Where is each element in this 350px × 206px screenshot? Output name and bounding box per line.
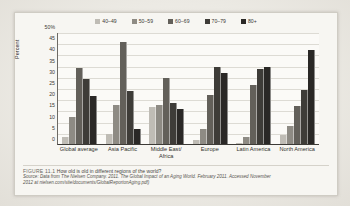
bar [76,68,83,144]
bar-group [106,33,141,144]
x-axis-category-label: Global average [58,146,100,159]
bar [156,105,163,144]
y-axis-tick-labels: 50%454035302520151050 [35,27,57,139]
legend-label: 70–79 [212,18,226,24]
legend-swatch-icon [168,19,173,24]
y-axis-tick-label: 40 [49,46,55,52]
bar [83,79,90,144]
legend-item: 40–49 [95,18,116,24]
legend-item: 70–79 [205,18,226,24]
y-axis-tick-label: 35 [49,58,55,64]
legend-item: 50–59 [132,18,153,24]
bar [127,91,134,144]
bar [257,69,264,144]
legend-swatch-icon [205,19,210,24]
bar [69,117,76,144]
bar [287,126,294,144]
bar [250,85,257,144]
legend-item: 60–69 [168,18,189,24]
bar [120,42,127,144]
bar [177,109,184,144]
x-axis-category-label: Europe [189,146,231,159]
x-axis-category-labels: Global averageAsia PacificMiddle East/ A… [57,146,319,159]
legend-swatch-icon [132,19,137,24]
x-axis-category-label: Latin America [232,146,274,159]
bar [243,137,250,144]
y-axis-tick-label: 50% [45,24,55,30]
bar [200,129,207,144]
bar-groups [58,33,319,144]
y-axis-title: Percent [14,40,20,59]
y-axis-tick-label: 0 [52,136,55,142]
figure-card: 40–49 50–59 60–69 70–79 80+ Percent 50%4… [14,12,338,196]
y-axis-tick-label: 30 [49,69,55,75]
bar [163,78,170,144]
legend-swatch-icon [241,19,246,24]
bar [294,106,301,144]
bar-group [280,33,315,144]
bar [193,140,200,144]
legend-label: 40–49 [102,18,116,24]
bar-group [236,33,271,144]
bar [134,129,141,144]
bar [221,73,228,144]
bar [106,134,113,144]
scanned-page: 40–49 50–59 60–69 70–79 80+ Percent 50%4… [0,0,350,206]
bar [280,135,287,144]
y-axis-tick-label: 5 [52,125,55,131]
x-axis-category-label: North America [276,146,318,159]
y-axis-tick-label: 45 [49,35,55,41]
x-axis-category-label: Asia Pacific [101,146,143,159]
bar [90,96,97,144]
bar [113,105,120,144]
bar [264,67,271,144]
legend-swatch-icon [95,19,100,24]
bar [149,107,156,144]
y-axis-tick-label: 10 [49,114,55,120]
bar-group [193,33,228,144]
figure-number: FIGURE 11.1 [23,168,55,174]
bar [308,50,315,144]
y-axis-tick-label: 20 [49,91,55,97]
chart-legend: 40–49 50–59 60–69 70–79 80+ [15,18,337,24]
bar [170,103,177,144]
bar [62,137,69,144]
bar [207,95,214,144]
bar [236,143,243,144]
figure-caption-text: How old is old in different regions of t… [57,168,162,174]
legend-item: 80+ [241,18,257,24]
bar [301,90,308,144]
figure-caption-block: FIGURE 11.1 How old is old in different … [23,165,329,186]
figure-source-line-2: 2012 at nielsen.com/site/documents/Globa… [23,180,329,186]
y-axis-tick-label: 25 [49,80,55,86]
plot-area [57,33,319,145]
legend-label: 50–59 [139,18,153,24]
legend-label: 80+ [248,18,257,24]
bar [214,67,221,144]
legend-label: 60–69 [175,18,189,24]
bar-group [62,33,97,144]
y-axis-tick-label: 15 [49,102,55,108]
x-axis-category-label: Middle East/ Africa [145,146,187,159]
bar-group [149,33,184,144]
